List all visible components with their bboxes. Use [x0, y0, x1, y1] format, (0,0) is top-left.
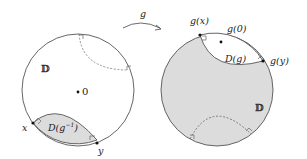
- point-x: [31, 121, 34, 124]
- map-arrow-g: g: [123, 8, 161, 30]
- left-disk-label: 𝔻: [41, 63, 50, 74]
- arrow-label: g: [140, 8, 146, 19]
- point-x-label: x: [22, 122, 28, 133]
- region-d-g-label: D(g): [224, 53, 246, 64]
- left-disk: 𝔻 0 x y D(g−1): [22, 34, 134, 156]
- point-gy: [261, 59, 264, 62]
- point-gx: [198, 33, 201, 36]
- point-origin: [77, 91, 80, 94]
- diagram-canvas: 𝔻 0 x y D(g−1) g g(x) g(0) g(y) D(g) 𝔻: [0, 0, 307, 159]
- point-g0: [220, 41, 223, 44]
- arrow-curve: [123, 23, 160, 28]
- gy-label: g(y): [270, 55, 289, 66]
- right-disk: g(x) g(0) g(y) D(g) 𝔻: [161, 15, 289, 146]
- right-disk-label: 𝔻: [255, 102, 264, 113]
- gx-label: g(x): [190, 15, 209, 26]
- origin-label: 0: [82, 86, 88, 97]
- g0-label: g(0): [227, 23, 247, 34]
- region-d-g-inverse-label: D(g−1): [47, 121, 78, 133]
- point-y-label: y: [97, 145, 104, 156]
